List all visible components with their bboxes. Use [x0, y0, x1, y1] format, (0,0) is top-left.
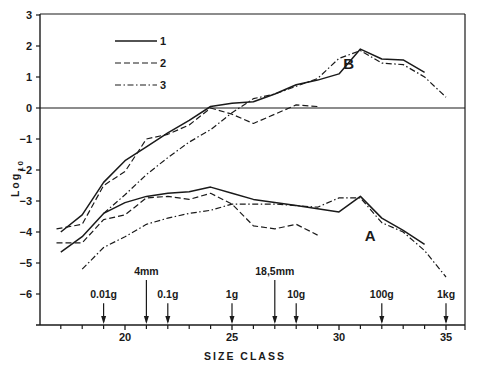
annotation-label: 1g: [226, 288, 238, 300]
y-tick-label: −5: [19, 257, 32, 269]
y-tick-label: −3: [19, 195, 32, 207]
arrow-head-icon: [379, 316, 384, 324]
x-tick-label: 35: [440, 331, 452, 343]
annotation-label: 100g: [370, 288, 394, 300]
arrow-head-icon: [272, 316, 277, 324]
annotation-label: 1kg: [437, 288, 455, 300]
series-A-2-line: [57, 193, 318, 243]
curve-label-A: A: [365, 227, 376, 244]
size-class-chart: 3210−1−2−3−4−5−6 20253035 123 BA 0.01g4m…: [0, 0, 478, 373]
arrow-head-icon: [165, 316, 170, 324]
x-tick-label: 30: [333, 331, 345, 343]
series-lines: [57, 49, 447, 277]
series-B-2-line: [57, 105, 318, 229]
y-tick-label: 0: [26, 102, 32, 114]
x-tick-label: 25: [226, 331, 238, 343]
series-B-3-line: [104, 51, 446, 214]
annotation-label: 18,5mm: [255, 265, 294, 277]
annotation-label: 0.1g: [157, 288, 178, 300]
arrow-head-icon: [144, 316, 149, 324]
size-annotations: 0.01g4mm0.1g1g18,5mm10g100g1kg: [90, 265, 455, 324]
x-axis-title: SIZE CLASS: [204, 350, 286, 362]
y-axis-title: Log10: [9, 159, 25, 197]
plot-frame: [36, 14, 465, 330]
legend-label-2: 2: [160, 57, 166, 69]
curve-group-labels: BA: [343, 55, 375, 244]
y-tick-label: −1: [19, 133, 32, 145]
y-tick-label: −6: [19, 288, 32, 300]
annotation-label: 0.01g: [90, 288, 117, 300]
y-axis-ticks: 3210−1−2−3−4−5−6: [19, 9, 40, 300]
y-axis-title-base: Log: [9, 172, 21, 197]
arrow-head-icon: [101, 316, 106, 324]
arrow-head-icon: [230, 316, 235, 324]
x-axis-ticks: 20253035: [61, 325, 452, 343]
curve-label-B: B: [343, 55, 354, 72]
y-tick-label: 3: [26, 9, 32, 21]
legend-label-1: 1: [160, 35, 166, 47]
annotation-label: 4mm: [134, 265, 159, 277]
y-tick-label: 2: [26, 40, 32, 52]
y-tick-label: 1: [26, 71, 32, 83]
annotation-label: 10g: [287, 288, 305, 300]
legend-label-3: 3: [160, 79, 166, 91]
arrow-head-icon: [444, 316, 449, 324]
legend: 123: [115, 35, 166, 91]
arrow-head-icon: [294, 316, 299, 324]
y-tick-label: −4: [19, 226, 32, 238]
y-axis-title-sub: 10: [16, 159, 25, 172]
x-tick-label: 20: [119, 331, 131, 343]
